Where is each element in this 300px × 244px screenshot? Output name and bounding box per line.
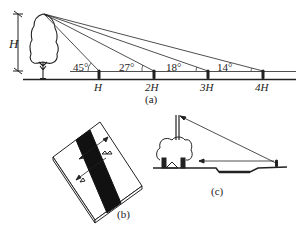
observer-icon — [97, 69, 100, 79]
distance-label-2H: 2H — [145, 81, 158, 93]
monument-icon — [176, 115, 179, 140]
observer-icon — [152, 69, 155, 79]
figure-viewing-angles: H 45° 27° 18° 14° H 2H 3H 4H (a) (b) (c) — [0, 0, 300, 244]
angle-label-18: 18° — [166, 61, 181, 73]
height-label: H — [9, 36, 18, 52]
sight-line-top — [180, 116, 276, 163]
caption-c: (c) — [211, 185, 223, 197]
angle-label-14: 14° — [217, 61, 232, 73]
tree-cluster-icon — [157, 137, 193, 160]
panel-a — [13, 11, 296, 80]
caption-a: (a) — [145, 93, 157, 105]
angle-label-27: 27° — [119, 61, 134, 73]
caption-b: (b) — [117, 208, 130, 220]
observer-icon — [275, 159, 278, 167]
observer-icon — [206, 69, 209, 79]
distance-label-3H: 3H — [200, 81, 213, 93]
angle-label-45: 45° — [73, 61, 88, 73]
tree-trunks — [162, 158, 185, 168]
panel-c — [153, 115, 287, 172]
distance-label-4H: 4H — [255, 81, 268, 93]
observer-icon — [261, 69, 264, 79]
distance-label-H: H — [94, 81, 102, 93]
